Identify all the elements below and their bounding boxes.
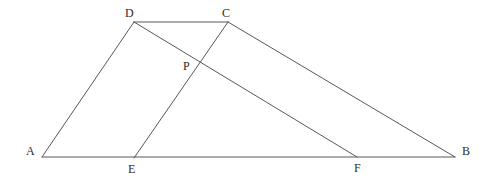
segment-DF — [134, 22, 357, 157]
segment-AD — [42, 22, 134, 157]
vertex-label-B: B — [462, 145, 470, 157]
vertex-label-A: A — [26, 145, 35, 157]
vertex-label-D: D — [125, 7, 134, 19]
vertex-label-E: E — [128, 163, 135, 175]
vertex-label-C: C — [222, 7, 230, 19]
vertex-label-P: P — [183, 60, 190, 72]
segment-CB — [228, 22, 455, 157]
geometry-canvas — [0, 0, 485, 179]
segment-EC — [134, 22, 228, 158]
vertex-label-F: F — [354, 162, 361, 174]
geometry-figure: A B C D E F P — [0, 0, 485, 179]
